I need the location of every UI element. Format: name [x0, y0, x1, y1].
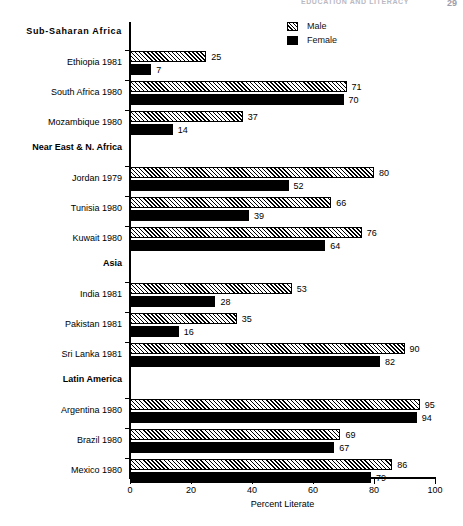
bar-male [130, 343, 405, 354]
bar-male [130, 51, 206, 62]
bar-male [130, 459, 392, 470]
bar-value-female: 67 [339, 443, 349, 453]
group-header-sub-saharan-africa: Sub-Saharan Africa [0, 26, 122, 36]
x-axis-tick [435, 479, 436, 484]
bar-value-male: 37 [248, 112, 258, 122]
chart-plot-area: Percent Literate 020406080100Sub-Saharan… [0, 0, 463, 526]
bar-female [130, 472, 371, 483]
x-axis-tick-label: 60 [308, 485, 318, 495]
chart-page: EDUCATION AND LITERACY 29 Male Female Pe… [0, 0, 463, 526]
bar-male [130, 227, 362, 238]
category-label: India 1981 [0, 289, 122, 299]
bar-female [130, 94, 344, 105]
bar-value-female: 79 [376, 473, 386, 483]
x-axis-tick [374, 479, 375, 484]
group-header-latin-america: Latin America [0, 374, 122, 384]
bar-male [130, 197, 331, 208]
bar-female [130, 296, 215, 307]
bar-male [130, 283, 292, 294]
bar-value-female: 94 [422, 413, 432, 423]
group-header-asia: Asia [0, 258, 122, 268]
category-label: Sri Lanka 1981 [0, 349, 122, 359]
bar-female [130, 412, 417, 423]
bar-value-female: 7 [156, 65, 161, 75]
bar-value-female: 39 [254, 211, 264, 221]
bar-value-female: 70 [349, 95, 359, 105]
bar-male [130, 111, 243, 122]
bar-male [130, 429, 340, 440]
category-label: Jordan 1979 [0, 173, 122, 183]
bar-value-female: 64 [330, 241, 340, 251]
bar-value-female: 82 [385, 357, 395, 367]
bar-value-female: 28 [220, 297, 230, 307]
category-label: Mozambique 1980 [0, 117, 122, 127]
category-label: Ethiopia 1981 [0, 57, 122, 67]
bar-value-male: 25 [211, 52, 221, 62]
bar-male [130, 313, 237, 324]
bar-female [130, 442, 334, 453]
bar-value-male: 76 [367, 228, 377, 238]
category-label: South Africa 1980 [0, 87, 122, 97]
bar-value-female: 16 [184, 327, 194, 337]
x-axis-tick-label: 40 [247, 485, 257, 495]
bar-male [130, 167, 374, 178]
category-label: Mexico 1980 [0, 465, 122, 475]
bar-male [130, 399, 420, 410]
bar-value-male: 66 [336, 198, 346, 208]
x-axis-tick-label: 0 [127, 485, 132, 495]
category-label: Brazil 1980 [0, 435, 122, 445]
bar-value-male: 90 [410, 344, 420, 354]
bar-value-male: 86 [397, 460, 407, 470]
x-axis-tick-label: 20 [186, 485, 196, 495]
category-label: Tunisia 1980 [0, 203, 122, 213]
bar-female [130, 64, 151, 75]
bar-male [130, 81, 347, 92]
x-axis-tick-label: 80 [369, 485, 379, 495]
bar-female [130, 124, 173, 135]
x-axis-title: Percent Literate [129, 499, 436, 509]
bar-value-male: 35 [242, 314, 252, 324]
group-header-near-east-n-africa: Near East & N. Africa [0, 142, 122, 152]
bar-female [130, 240, 325, 251]
bar-female [130, 326, 179, 337]
x-axis-tick-label: 100 [427, 485, 442, 495]
bar-value-female: 52 [294, 181, 304, 191]
bar-value-male: 71 [352, 82, 362, 92]
category-label: Kuwait 1980 [0, 233, 122, 243]
bar-value-male: 95 [425, 400, 435, 410]
category-label: Pakistan 1981 [0, 319, 122, 329]
bar-value-female: 14 [178, 125, 188, 135]
bar-value-male: 80 [379, 168, 389, 178]
bar-female [130, 180, 289, 191]
bar-value-male: 53 [297, 284, 307, 294]
bar-female [130, 356, 380, 367]
category-label: Argentina 1980 [0, 405, 122, 415]
bar-female [130, 210, 249, 221]
bar-value-male: 69 [345, 430, 355, 440]
